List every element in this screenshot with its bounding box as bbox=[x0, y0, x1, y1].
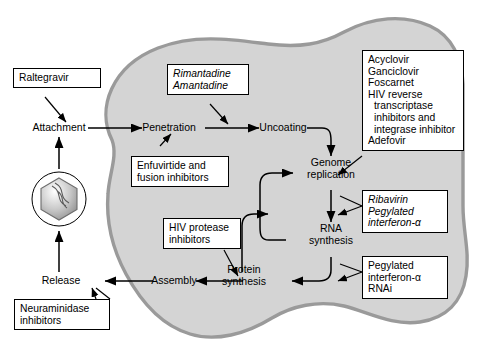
diagram-canvas: Attachment Penetration Uncoating Genome … bbox=[0, 0, 485, 361]
node-penetration[interactable]: Penetration bbox=[131, 122, 207, 134]
drug-box-fusion-inhibitors[interactable]: Enfuvirtide andfusion inhibitors bbox=[131, 156, 229, 187]
drug-box-protein-synthesis-inhibitors[interactable]: Pegylatedinterferon-αRNAi bbox=[362, 256, 448, 299]
drug-line: Neuraminidase bbox=[20, 303, 104, 315]
drug-box-adamantanes[interactable]: RimantadineAmantadine bbox=[167, 64, 249, 95]
drug-line: transcriptase bbox=[368, 100, 458, 112]
drug-line: Foscarnet bbox=[368, 77, 458, 89]
drug-line: RNAi bbox=[368, 283, 442, 295]
drug-line: Rimantadine bbox=[173, 68, 243, 80]
drug-line: Ganciclovir bbox=[368, 66, 458, 78]
drug-box-rna-synthesis-inhibitors[interactable]: RibavirinPegylatedinterferon-α bbox=[362, 190, 448, 233]
drug-line: interferon-α bbox=[368, 272, 442, 284]
leader-neuraminidase-2 bbox=[92, 288, 96, 299]
node-attachment[interactable]: Attachment bbox=[10, 122, 108, 134]
node-assembly[interactable]: Assembly bbox=[143, 275, 205, 287]
drug-line: HIV reverse bbox=[368, 89, 458, 101]
drug-line: HIV protease bbox=[169, 222, 235, 234]
drug-line: fusion inhibitors bbox=[137, 172, 223, 184]
node-release[interactable]: Release bbox=[30, 275, 92, 287]
node-protein-synthesis[interactable]: Protein synthesis bbox=[206, 264, 282, 287]
drug-line: interferon-α bbox=[368, 217, 442, 229]
node-genome-replication[interactable]: Genome replication bbox=[290, 157, 372, 180]
drug-box-neuraminidase-inhibitors[interactable]: Neuraminidaseinhibitors bbox=[14, 299, 110, 330]
drug-line: Pegylated bbox=[368, 206, 442, 218]
leader-neuraminidase bbox=[96, 288, 110, 299]
drug-line: Ribavirin bbox=[368, 194, 442, 206]
drug-line: inhibitors bbox=[169, 234, 235, 246]
leader-raltegravir bbox=[45, 97, 66, 122]
drug-box-hiv-protease-inhibitors[interactable]: HIV proteaseinhibitors bbox=[163, 218, 241, 249]
drug-line: inhibitors bbox=[20, 315, 104, 327]
node-uncoating[interactable]: Uncoating bbox=[248, 122, 318, 134]
drug-box-genome-replication-inhibitors[interactable]: AcyclovirGanciclovirFoscarnetHIV reverse… bbox=[362, 50, 464, 151]
drug-line: Pegylated bbox=[368, 260, 442, 272]
drug-line: inhibitors and bbox=[368, 112, 458, 124]
drug-line: integrase inhibitor bbox=[368, 124, 458, 136]
drug-line: Enfuvirtide and bbox=[137, 160, 223, 172]
virus-particle-icon bbox=[32, 172, 86, 226]
node-rna-synthesis[interactable]: RNA synthesis bbox=[294, 223, 368, 246]
drug-box-raltegravir[interactable]: Raltegravir bbox=[13, 68, 101, 88]
drug-line: Amantadine bbox=[173, 80, 243, 92]
drug-line: Raltegravir bbox=[19, 72, 95, 84]
drug-line: Adefovir bbox=[368, 135, 458, 147]
drug-line: Acyclovir bbox=[368, 54, 458, 66]
